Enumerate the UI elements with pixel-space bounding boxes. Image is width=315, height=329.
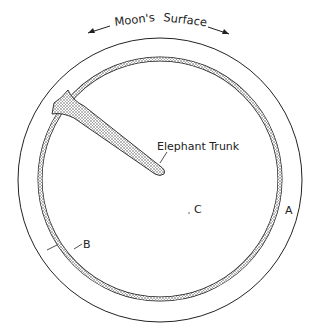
b-pointer [47, 245, 57, 250]
surface-label-right: Surface [163, 10, 208, 29]
surface-label-group: Moon's Surface [88, 10, 229, 34]
elephant-trunk [52, 90, 165, 176]
label-b: B [83, 238, 91, 251]
diagram: Moon's Surface Elephant Trunk A B C [0, 0, 315, 329]
label-c: C [194, 203, 202, 216]
moon-cross-section: Moon's Surface Elephant Trunk A B C [0, 0, 315, 329]
outer-surface-circle [18, 38, 302, 322]
center-point [188, 212, 190, 214]
inner-band [40, 59, 280, 299]
surface-label-left: Moon's [114, 10, 156, 29]
label-elephant-trunk: Elephant Trunk [157, 140, 240, 153]
trunk-pointer [160, 152, 167, 163]
label-a: A [285, 204, 293, 217]
